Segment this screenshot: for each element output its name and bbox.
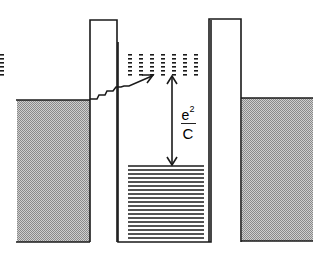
charging-energy-arrow [167,76,177,165]
filled-levels [128,166,204,238]
coulomb-blockade-diagram [0,0,325,257]
label-denominator: C [183,126,194,141]
right-barrier [209,19,241,242]
tunneling-arrow [90,75,153,99]
left-barrier [90,20,117,242]
left-lead [16,100,90,242]
empty-levels [0,54,198,76]
island-well [118,20,211,242]
right-lead [241,98,313,241]
charging-energy-label: e2 C [180,104,196,141]
label-numerator: e2 [182,104,195,122]
fraction-bar [181,123,196,124]
numerator-exponent: 2 [189,104,194,114]
